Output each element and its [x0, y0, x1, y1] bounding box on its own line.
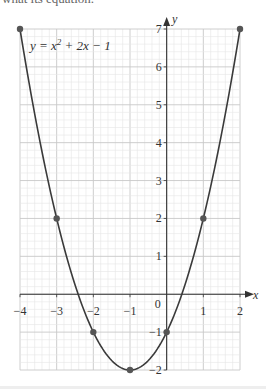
x-axis-label: x: [252, 288, 259, 302]
data-point: [237, 26, 243, 32]
data-point: [53, 215, 59, 221]
data-point: [90, 329, 96, 335]
svg-text:−4: −4: [14, 304, 27, 318]
y-axis-label: y: [171, 12, 178, 26]
svg-text:6: 6: [156, 60, 162, 74]
data-point: [127, 367, 133, 373]
svg-text:2: 2: [237, 304, 243, 318]
data-point: [200, 215, 206, 221]
svg-text:3: 3: [156, 174, 162, 188]
svg-text:−1: −1: [149, 325, 162, 339]
svg-text:7: 7: [156, 22, 162, 36]
svg-text:0: 0: [155, 297, 161, 311]
svg-text:4: 4: [156, 136, 162, 150]
svg-text:1: 1: [200, 304, 206, 318]
svg-text:−2: −2: [149, 363, 162, 377]
parabola-chart: −4−3−2−1012−2−11234567 y = x2 + 2x − 1 x…: [0, 0, 266, 389]
svg-text:−2: −2: [87, 304, 100, 318]
equation-label: y = x2 + 2x − 1: [28, 37, 111, 53]
data-point: [17, 26, 23, 32]
svg-text:1: 1: [156, 249, 162, 263]
svg-text:2: 2: [156, 211, 162, 225]
svg-text:−3: −3: [50, 304, 63, 318]
svg-text:−1: −1: [124, 304, 137, 318]
svg-text:5: 5: [156, 98, 162, 112]
data-point: [163, 329, 169, 335]
